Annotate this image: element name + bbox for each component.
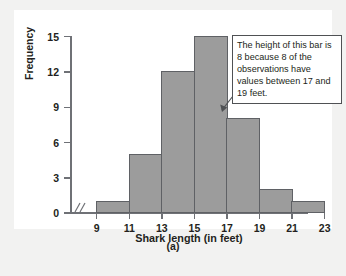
y-axis-tick: 3: [64, 177, 70, 178]
x-axis-tick: 21: [291, 213, 292, 219]
histogram-bar: [226, 118, 260, 213]
histogram-bar: [194, 36, 228, 213]
y-axis-tick-label: 15: [47, 31, 59, 43]
y-axis-tick: 6: [64, 142, 70, 143]
y-axis-tick-label: 6: [53, 137, 59, 149]
plot-area: 03691215 911131517192123 Frequency Shark…: [14, 10, 332, 229]
histogram-bar: [161, 71, 195, 213]
figure-caption: (a): [0, 240, 346, 252]
y-axis-line: [70, 36, 72, 213]
y-axis-tick-label: 3: [53, 172, 59, 184]
histogram-bar: [96, 201, 130, 213]
x-axis-tick: 13: [161, 213, 162, 219]
y-axis-tick-label: 0: [53, 207, 59, 219]
y-axis-tick: 15: [64, 36, 70, 37]
y-axis-tick-label: 9: [53, 101, 59, 113]
figure-container: 03691215 911131517192123 Frequency Shark…: [0, 0, 346, 276]
x-axis-tick: 15: [194, 213, 195, 219]
x-axis-tick: 11: [129, 213, 130, 219]
y-axis-tick-label: 12: [47, 66, 59, 78]
histogram-bar: [291, 201, 325, 213]
y-axis-tick: 12: [64, 71, 70, 72]
x-axis-tick: 19: [259, 213, 260, 219]
axis-break-icon: [73, 202, 89, 214]
y-axis-tick: 0: [64, 212, 70, 213]
y-axis-tick: 9: [64, 107, 70, 108]
y-axis-title: Frequency: [23, 27, 35, 80]
x-axis-tick: 23: [324, 213, 325, 219]
x-axis-tick: 9: [96, 213, 97, 219]
histogram-bar: [129, 154, 163, 213]
x-axis-tick: 17: [226, 213, 227, 219]
histogram-bar: [259, 189, 293, 213]
x-axis-tick-label: 23: [319, 222, 331, 234]
callout-annotation: The height of this bar is 8 because 8 of…: [232, 35, 342, 104]
